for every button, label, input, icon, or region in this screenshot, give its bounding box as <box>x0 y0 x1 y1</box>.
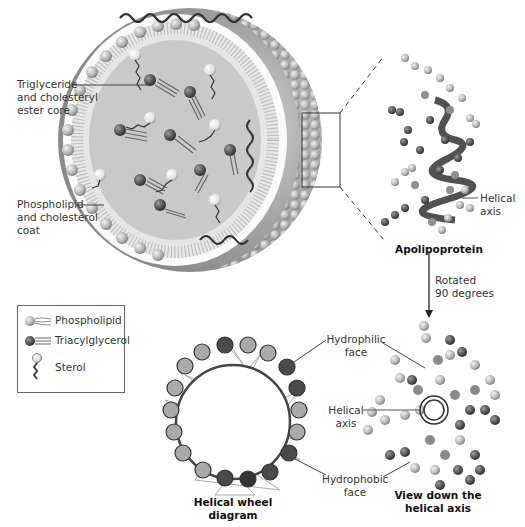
helical-axis-label-bottom: Helical axis <box>326 404 366 430</box>
triacylglycerol-icon <box>25 336 51 346</box>
coat-label: Phospholipid and cholesterol coat <box>17 198 98 237</box>
legend-item-triacylglycerol: Triacylglycerol <box>55 334 130 346</box>
helical-wheel <box>163 337 326 495</box>
apolipoprotein-model <box>381 54 480 234</box>
helical-wheel-label: Helical wheel diagram <box>185 496 281 522</box>
legend-item-phospholipid: Phospholipid <box>55 314 122 326</box>
core-label: Triglyceride and cholesteryl ester core <box>17 78 98 117</box>
helical-axis-label-top: Helical axis <box>480 192 515 218</box>
phospholipid-icon <box>25 316 51 326</box>
view-down-label: View down the helical axis <box>393 489 483 515</box>
apolipoprotein-label: Apolipoprotein <box>395 243 483 256</box>
legend-item-sterol: Sterol <box>55 361 86 373</box>
sterol-icon <box>33 354 42 380</box>
rotated-label: Rotated 90 degrees <box>435 274 494 300</box>
hydrophobic-label: Hydrophobic face <box>322 473 388 499</box>
legend: Phospholipid Triacylglycerol Sterol <box>17 305 125 393</box>
hydrophilic-label: Hydrophilic face <box>326 333 386 359</box>
lipoprotein-particle <box>58 8 384 272</box>
